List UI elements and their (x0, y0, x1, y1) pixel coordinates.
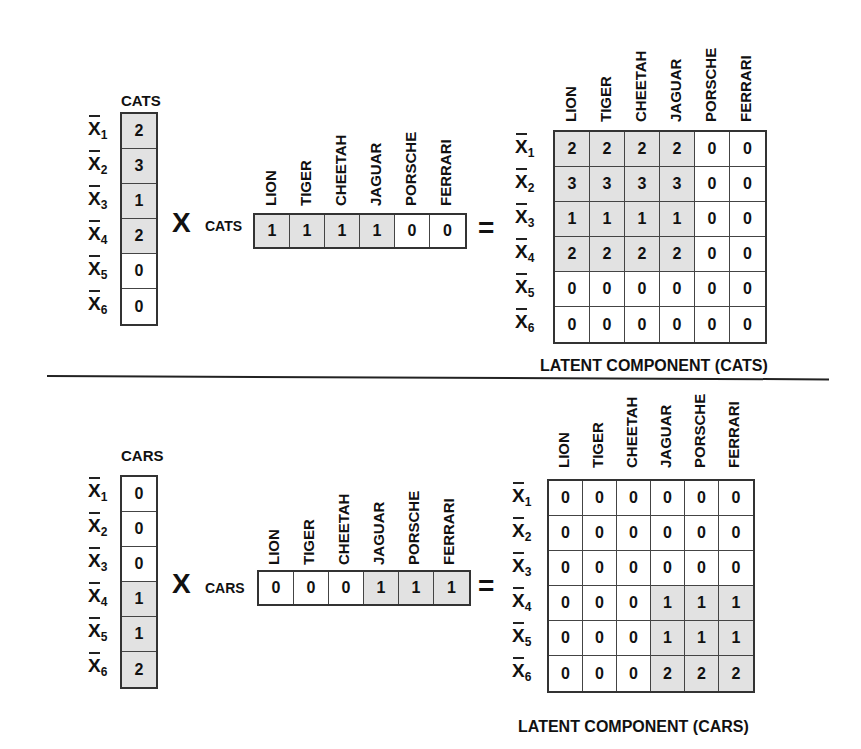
cars-matrix-cell: 0 (685, 551, 719, 586)
row-label-subscript: 6 (528, 321, 535, 335)
row-label-base: X (515, 276, 528, 298)
row-label-subscript: 4 (528, 251, 535, 265)
cats-matrix-cell: 0 (695, 272, 730, 307)
row-label-base: X (512, 555, 525, 577)
cats-latent-matrix: 222200333300111100222200000000000000 (553, 130, 767, 344)
cats-matrix-cell: 0 (555, 272, 590, 307)
row-label-base: X (88, 620, 101, 642)
cars-user-vector-cell: 2 (122, 652, 156, 687)
row-label-x1: X1 (512, 485, 540, 509)
cars-user-vector-cell: 1 (122, 582, 156, 617)
cats-matrix-header-tiger: TIGER (598, 76, 613, 122)
row-label-base: X (515, 171, 528, 193)
cats-matrix-cell: 2 (625, 132, 660, 167)
cars-item-vector-cell: 1 (364, 572, 399, 604)
cats-item-vector: 111100 (253, 213, 467, 249)
cars-matrix-header-cheetah: CHEETAH (624, 397, 639, 468)
cats-item-vector-cell: 0 (430, 215, 465, 247)
cats-equals-sign: = (478, 212, 494, 244)
row-label-subscript: 5 (101, 268, 108, 282)
row-label-base: X (515, 136, 528, 158)
cats-matrix-cell: 0 (590, 272, 625, 307)
cars-matrix-cell: 0 (617, 586, 651, 621)
cats-matrix-cell: 3 (590, 167, 625, 202)
cars-matrix-cell: 0 (719, 481, 753, 516)
cars-matrix-cell: 1 (685, 586, 719, 621)
cars-matrix-cell: 0 (549, 551, 583, 586)
cats-matrix-cell: 0 (695, 167, 730, 202)
cats-item-header-porsche: PORSCHE (403, 132, 418, 206)
cars-user-vector: 000112 (120, 475, 158, 689)
cats-item-header-cheetah: CHEETAH (333, 135, 348, 206)
cats-matrix-cell: 2 (555, 132, 590, 167)
row-label-base: X (515, 311, 528, 333)
row-label-base: X (88, 223, 101, 245)
cats-user-vector-cell: 3 (122, 149, 156, 184)
row-label-x2: X2 (512, 520, 540, 544)
row-label-x6: X6 (88, 655, 116, 679)
cats-user-vector: 231200 (120, 112, 158, 326)
cats-item-header-jaguar: JAGUAR (368, 143, 383, 206)
row-label-x5: X5 (88, 258, 116, 282)
row-label-base: X (512, 660, 525, 682)
row-label-base: X (88, 188, 101, 210)
row-label-subscript: 2 (528, 181, 535, 195)
row-label-subscript: 2 (101, 525, 108, 539)
cats-matrix-cell: 0 (590, 307, 625, 342)
row-label-base: X (512, 590, 525, 612)
cars-user-vector-cell: 1 (122, 617, 156, 652)
row-label-base: X (88, 480, 101, 502)
row-label-base: X (515, 206, 528, 228)
row-label-x6: X6 (88, 293, 116, 317)
cars-matrix-cell: 0 (583, 621, 617, 656)
cars-matrix-cell: 0 (549, 656, 583, 691)
cars-matrix-cell: 0 (549, 516, 583, 551)
row-label-x1: X1 (515, 136, 543, 160)
cars-matrix-cell: 0 (617, 621, 651, 656)
cats-matrix-header-jaguar: JAGUAR (668, 59, 683, 122)
cats-matrix-header-lion: LION (563, 86, 578, 122)
cars-matrix-cell: 0 (719, 516, 753, 551)
row-label-subscript: 1 (101, 128, 108, 142)
row-label-base: X (88, 118, 101, 140)
cats-matrix-cell: 1 (590, 202, 625, 237)
row-label-subscript: 5 (528, 286, 535, 300)
cats-matrix-cell: 1 (660, 202, 695, 237)
row-label-subscript: 4 (101, 595, 108, 609)
row-label-subscript: 4 (525, 600, 532, 614)
cats-item-header-tiger: TIGER (298, 160, 313, 206)
cars-matrix-cell: 0 (583, 656, 617, 691)
cats-matrix-cell: 1 (625, 202, 660, 237)
cats-user-vector-cell: 1 (122, 184, 156, 219)
cats-matrix-cell: 0 (695, 307, 730, 342)
cats-item-header-lion: LION (263, 170, 278, 206)
row-label-x6: X6 (515, 311, 543, 335)
cats-column-vector-title: CATS (121, 92, 161, 109)
cats-user-vector-cell: 2 (122, 114, 156, 149)
cars-matrix-header-jaguar: JAGUAR (658, 405, 673, 468)
cars-matrix-cell: 1 (719, 586, 753, 621)
cats-item-vector-cell: 1 (360, 215, 395, 247)
cats-item-vector-cell: 1 (255, 215, 290, 247)
row-label-base: X (88, 153, 101, 175)
cars-matrix-cell: 0 (651, 481, 685, 516)
row-label-subscript: 3 (528, 216, 535, 230)
cats-item-header-ferrari: FERRARI (438, 139, 453, 206)
cats-matrix-cell: 0 (555, 307, 590, 342)
cars-item-header-lion: LION (266, 529, 281, 565)
cats-matrix-cell: 0 (695, 132, 730, 167)
row-label-x4: X4 (515, 241, 543, 265)
row-label-base: X (88, 655, 101, 677)
cats-caption: LATENT COMPONENT (CATS) (540, 357, 768, 375)
cats-user-vector-cell: 0 (122, 254, 156, 289)
cars-matrix-cell: 1 (685, 621, 719, 656)
cats-item-vector-cell: 1 (290, 215, 325, 247)
row-label-x1: X1 (88, 480, 116, 504)
row-label-x3: X3 (88, 188, 116, 212)
cars-matrix-header-tiger: TIGER (590, 422, 605, 468)
cars-matrix-cell: 0 (549, 481, 583, 516)
row-label-subscript: 3 (101, 560, 108, 574)
row-label-x5: X5 (88, 620, 116, 644)
cars-matrix-cell: 0 (617, 656, 651, 691)
row-label-base: X (88, 258, 101, 280)
